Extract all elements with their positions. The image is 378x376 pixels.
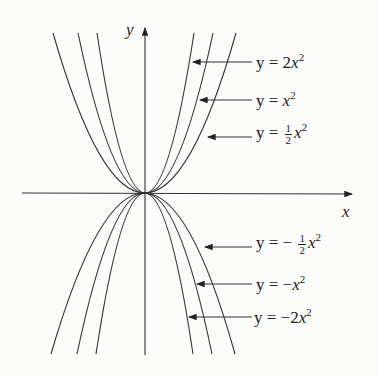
label-neg-2x2: y = −2x2	[254, 306, 312, 328]
label-neg-half-x2: y = − 12x2	[256, 231, 321, 256]
label-2x2: y = 2x2	[256, 51, 304, 73]
label-x2: y = x2	[256, 89, 296, 111]
x-axis-label: x	[342, 202, 350, 222]
label-neg-x2: y = −x2	[256, 273, 305, 295]
y-axis-label: y	[126, 20, 134, 40]
parabola-plot	[0, 0, 378, 376]
curve-neg-half-x2	[51, 193, 235, 354]
label-half-x2: y = 12x2	[256, 121, 307, 146]
x-axis	[22, 193, 352, 194]
